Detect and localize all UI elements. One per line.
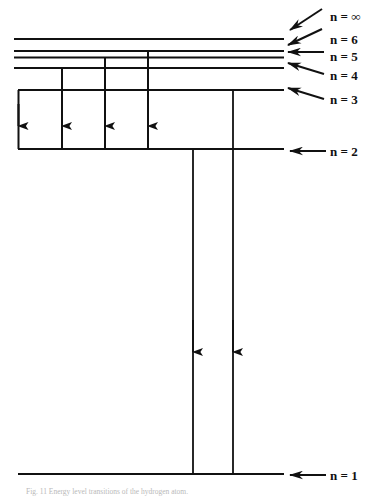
level-labels: n = ∞ n = 6 n = 5 n = 4 n = 3 n = 2 n = … bbox=[330, 9, 360, 483]
level-label-n3: n = 3 bbox=[330, 92, 358, 107]
pointer-arrow-n6-icon bbox=[288, 29, 322, 45]
diagram-canvas: n = ∞ n = 6 n = 5 n = 4 n = 3 n = 2 n = … bbox=[0, 0, 381, 496]
level-label-n5: n = 5 bbox=[330, 49, 358, 64]
level-label-n6: n = 6 bbox=[330, 32, 358, 47]
pointer-arrow-n4-icon bbox=[288, 63, 324, 74]
pointer-arrow-n-infinity-icon bbox=[290, 9, 322, 30]
energy-level-diagram: n = ∞ n = 6 n = 5 n = 4 n = 3 n = 2 n = … bbox=[0, 0, 381, 496]
level-label-n4: n = 4 bbox=[330, 68, 358, 83]
transition-arrows bbox=[19, 51, 234, 474]
pointer-arrow-n3-icon bbox=[288, 88, 324, 99]
level-label-n-infinity: n = ∞ bbox=[330, 9, 360, 24]
pointer-arrows bbox=[288, 9, 326, 475]
level-label-n1: n = 1 bbox=[330, 468, 358, 483]
figure-caption: Fig. 11 Energy level transitions of the … bbox=[26, 487, 366, 496]
level-label-n2: n = 2 bbox=[330, 144, 358, 159]
